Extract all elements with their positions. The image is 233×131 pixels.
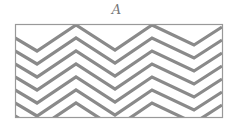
zigzag-diagram — [0, 0, 233, 131]
zigzag-line — [15, 25, 222, 51]
zigzag-lines — [15, 25, 222, 129]
